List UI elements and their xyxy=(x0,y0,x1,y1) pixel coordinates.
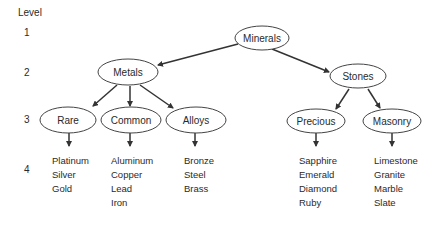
svg-text:Minerals: Minerals xyxy=(243,33,281,44)
leaf-item: Slate xyxy=(374,196,418,210)
svg-text:Common: Common xyxy=(111,115,152,126)
leaf-item: Lead xyxy=(111,182,153,196)
leaf-list-masonry: Limestone Granite Marble Slate xyxy=(374,154,418,210)
leaf-item: Diamond xyxy=(299,182,337,196)
node-alloys: Alloys xyxy=(166,107,226,133)
leaf-item: Brass xyxy=(184,182,214,196)
leaf-item: Granite xyxy=(374,168,418,182)
edge-stones-masonry xyxy=(368,89,380,108)
node-masonry: Masonry xyxy=(363,109,421,133)
leaf-item: Platinum xyxy=(52,154,89,168)
edge-metals-alloys xyxy=(140,85,173,108)
leaf-item: Sapphire xyxy=(299,154,337,168)
leaf-list-precious: Sapphire Emerald Diamond Ruby xyxy=(299,154,337,210)
edge-metals-rare xyxy=(93,85,117,106)
leaf-list-alloys: Bronze Steel Brass xyxy=(184,154,214,196)
node-minerals: Minerals xyxy=(235,26,289,50)
leaf-item: Bronze xyxy=(184,154,214,168)
leaf-item: Iron xyxy=(111,196,153,210)
leaf-item: Marble xyxy=(374,182,418,196)
leaf-item: Steel xyxy=(184,168,214,182)
edge-minerals-stones xyxy=(272,49,329,72)
edge-stones-precious xyxy=(336,89,349,109)
node-common: Common xyxy=(101,107,161,133)
svg-text:Alloys: Alloys xyxy=(183,115,210,126)
svg-text:Metals: Metals xyxy=(113,67,142,78)
leaf-item: Ruby xyxy=(299,196,337,210)
svg-text:Rare: Rare xyxy=(57,115,79,126)
leaf-item: Limestone xyxy=(374,154,418,168)
node-stones: Stones xyxy=(330,64,386,88)
leaf-item: Silver xyxy=(52,168,89,182)
node-precious: Precious xyxy=(287,109,345,133)
leaf-item: Emerald xyxy=(299,168,337,182)
edge-minerals-metals xyxy=(158,44,238,65)
leaf-item: Aluminum xyxy=(111,154,153,168)
leaf-item: Copper xyxy=(111,168,153,182)
leaf-item: Gold xyxy=(52,182,89,196)
node-rare: Rare xyxy=(40,107,96,133)
node-metals: Metals xyxy=(98,59,158,85)
leaf-list-common: Aluminum Copper Lead Iron xyxy=(111,154,153,210)
svg-text:Stones: Stones xyxy=(342,71,373,82)
svg-text:Masonry: Masonry xyxy=(373,116,411,127)
svg-text:Precious: Precious xyxy=(297,116,336,127)
leaf-list-rare: Platinum Silver Gold xyxy=(52,154,89,196)
